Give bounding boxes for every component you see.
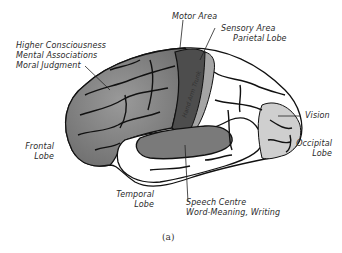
label-speech-centre: Speech Centre Word-Meaning, Writing — [186, 198, 280, 218]
occipital-line1: Occipital — [290, 139, 332, 149]
higher-line2: Mental Associations — [16, 51, 106, 61]
brain-diagram: Hand Arm Trunk Motor Area Sensory Area P… — [0, 0, 342, 253]
higher-line1: Higher Consciousness — [16, 41, 106, 51]
speech-line2: Word-Meaning, Writing — [186, 208, 280, 218]
label-occipital-lobe: Occipital Lobe — [290, 139, 332, 159]
occipital-line2: Lobe — [290, 149, 332, 159]
label-frontal-lobe: Frontal Lobe — [24, 142, 54, 162]
speech-line1: Speech Centre — [186, 198, 280, 208]
higher-line3: Moral Judgment — [16, 61, 106, 71]
label-vision: Vision — [305, 111, 330, 121]
motor-area-text: Motor Area — [172, 12, 217, 21]
brain-illustration: Hand Arm Trunk — [0, 0, 342, 253]
label-motor-area: Motor Area — [172, 12, 217, 22]
label-higher-consciousness: Higher Consciousness Mental Associations… — [16, 41, 106, 71]
vision-text: Vision — [305, 111, 330, 120]
temporal-line2: Lobe — [112, 200, 154, 210]
label-temporal-lobe: Temporal Lobe — [112, 190, 154, 210]
sensory-area-line1: Sensory Area — [221, 24, 287, 34]
frontal-line2: Lobe — [24, 152, 54, 162]
label-sensory-area: Sensory Area Parietal Lobe — [221, 24, 287, 44]
sensory-area-line2: Parietal Lobe — [221, 34, 287, 44]
temporal-line1: Temporal — [112, 190, 154, 200]
frontal-line1: Frontal — [24, 142, 54, 152]
figure-caption: (a) — [162, 232, 174, 242]
